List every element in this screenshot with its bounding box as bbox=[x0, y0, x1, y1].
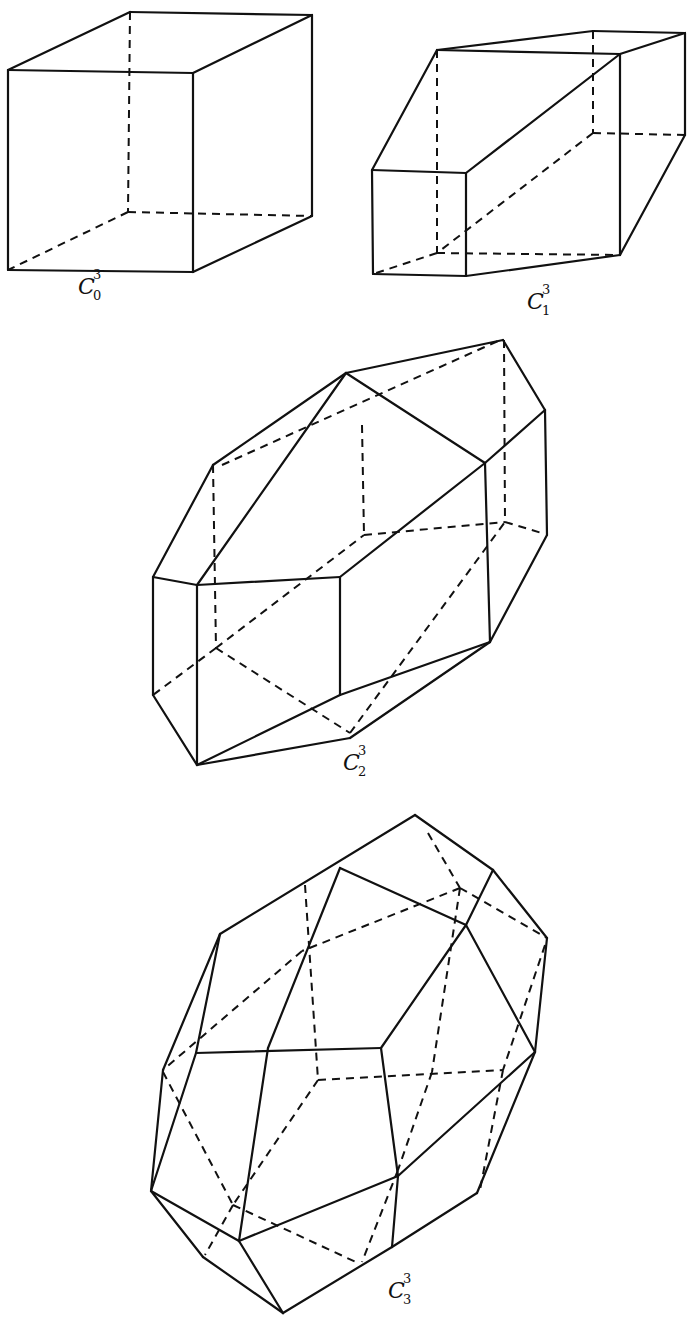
visible-edge bbox=[392, 1176, 398, 1247]
hidden-edge bbox=[8, 212, 128, 270]
visible-edge bbox=[153, 695, 197, 765]
hidden-edge bbox=[350, 522, 505, 733]
polytope-c3 bbox=[151, 815, 547, 1313]
hidden-edge bbox=[504, 340, 505, 522]
visible-edge bbox=[151, 1191, 239, 1241]
visible-edge bbox=[466, 925, 535, 1052]
visible-edge bbox=[220, 815, 415, 934]
hidden-edge bbox=[362, 425, 364, 535]
hidden-edge bbox=[505, 522, 545, 534]
label-c3-sup: 3 bbox=[403, 1272, 411, 1285]
visible-edge bbox=[197, 695, 340, 765]
visible-edge bbox=[466, 870, 493, 925]
visible-edge bbox=[197, 577, 340, 585]
hidden-edge bbox=[216, 648, 350, 733]
visible-edge bbox=[503, 340, 545, 410]
hidden-edge bbox=[153, 648, 216, 695]
visible-edge bbox=[466, 54, 620, 173]
label-c0-sub: 0 bbox=[93, 289, 101, 302]
hidden-edge bbox=[437, 253, 620, 255]
visible-edge bbox=[239, 1176, 398, 1241]
visible-edge bbox=[153, 465, 213, 577]
visible-edge bbox=[372, 170, 373, 274]
hidden-edge bbox=[302, 888, 460, 951]
visible-edge bbox=[340, 463, 485, 577]
visible-edge bbox=[381, 1048, 398, 1176]
hidden-edge bbox=[213, 465, 216, 648]
hidden-edge bbox=[437, 133, 593, 253]
visible-edge bbox=[163, 934, 220, 1070]
visible-edge bbox=[8, 12, 130, 70]
visible-edge bbox=[346, 340, 503, 373]
visible-edge bbox=[485, 463, 490, 642]
visible-edge bbox=[196, 934, 220, 1053]
polytope-c0 bbox=[8, 12, 312, 272]
label-c1-sub: 1 bbox=[542, 304, 550, 317]
hidden-edge bbox=[222, 341, 498, 465]
visible-edge bbox=[153, 577, 197, 585]
visible-edge bbox=[545, 410, 547, 535]
visible-edge bbox=[466, 255, 620, 276]
visible-edge bbox=[346, 373, 485, 463]
polytope-c2 bbox=[153, 340, 547, 765]
label-c0: C30 bbox=[78, 276, 95, 298]
visible-edge bbox=[193, 216, 312, 272]
visible-edge bbox=[620, 135, 685, 255]
hidden-edge bbox=[373, 253, 437, 274]
visible-edge bbox=[8, 70, 193, 73]
hidden-edge bbox=[318, 1070, 503, 1080]
visible-edge bbox=[437, 31, 593, 50]
visible-edge bbox=[398, 1052, 535, 1176]
hidden-edge bbox=[233, 1080, 318, 1205]
label-c3-sub: 3 bbox=[403, 1293, 411, 1306]
visible-edge bbox=[350, 642, 490, 738]
label-c1: C31 bbox=[527, 291, 544, 313]
visible-edge bbox=[197, 373, 346, 585]
visible-edge bbox=[130, 12, 312, 15]
hidden-edge bbox=[480, 1070, 503, 1190]
hidden-edge bbox=[233, 1205, 358, 1263]
hidden-edge bbox=[398, 1072, 432, 1170]
hidden-edge bbox=[216, 535, 364, 648]
visible-edge bbox=[620, 33, 685, 54]
label-c0-sup: 3 bbox=[93, 268, 101, 281]
visible-edge bbox=[283, 1247, 392, 1313]
visible-edge bbox=[493, 870, 547, 938]
hidden-edge bbox=[593, 133, 685, 135]
visible-edge bbox=[340, 642, 490, 695]
label-c2-sub: 2 bbox=[358, 765, 366, 778]
hidden-edge bbox=[163, 1072, 233, 1205]
polytope-c1 bbox=[372, 31, 685, 276]
visible-edge bbox=[381, 925, 466, 1048]
visible-edge bbox=[193, 15, 312, 73]
hidden-edge bbox=[428, 833, 460, 888]
visible-edge bbox=[239, 1048, 268, 1241]
visible-edge bbox=[490, 535, 547, 642]
hidden-edge bbox=[128, 212, 312, 216]
label-c2-sup: 3 bbox=[358, 744, 366, 757]
visible-edge bbox=[415, 815, 493, 870]
visible-edge bbox=[268, 868, 340, 1048]
visible-edge bbox=[196, 1048, 381, 1053]
visible-edge bbox=[239, 1241, 283, 1313]
visible-edge bbox=[372, 170, 466, 173]
polytope-figure: C30 C31 C32 C33 bbox=[0, 0, 691, 1327]
label-c1-sup: 3 bbox=[542, 283, 550, 296]
visible-edge bbox=[340, 868, 466, 925]
hidden-edge bbox=[364, 522, 505, 535]
visible-edge bbox=[535, 938, 547, 1052]
visible-edge bbox=[593, 31, 685, 33]
visible-edge bbox=[477, 1052, 535, 1193]
polytope-canvas bbox=[0, 0, 691, 1327]
visible-edge bbox=[373, 274, 466, 276]
visible-edge bbox=[372, 50, 437, 170]
label-c2: C32 bbox=[343, 752, 360, 774]
visible-edge bbox=[197, 738, 350, 765]
hidden-edge bbox=[128, 12, 130, 212]
visible-edge bbox=[151, 1191, 203, 1257]
visible-edge bbox=[203, 1257, 283, 1313]
label-c3: C33 bbox=[388, 1280, 405, 1302]
visible-edge bbox=[392, 1193, 477, 1247]
visible-edge bbox=[485, 410, 545, 463]
